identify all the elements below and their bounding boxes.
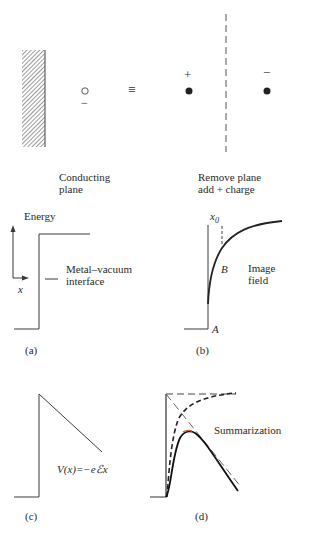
x-axis-label: x [18, 283, 23, 295]
potential-formula: V(x)=−eℰx [57, 463, 108, 475]
point-a-label: A [212, 323, 219, 335]
interface-label-2: interface [66, 275, 104, 287]
conducting-plane-icon [22, 50, 45, 147]
remove-plane-label-1: Remove plane [198, 171, 261, 183]
summarization-label: Summarization [214, 424, 281, 436]
positive-charge-sign: + [184, 68, 191, 81]
panel-d-graphic [150, 393, 241, 497]
point-b-label: B [221, 263, 228, 275]
x0-label: x0 [210, 210, 219, 227]
remove-plane-label-2: add + charge [198, 183, 255, 195]
panel-c-graphic [14, 394, 102, 497]
electron-icon [82, 88, 88, 94]
caption-c: (c) [25, 510, 37, 522]
image-field-label-2: field [248, 274, 268, 286]
conducting-plane-label-2: plane [59, 183, 83, 195]
equivalent-symbol: ≡ [128, 83, 135, 96]
negative-charge-dot [264, 88, 271, 95]
energy-axis-label: Energy [24, 210, 56, 222]
negative-charge-sign: − [263, 66, 270, 79]
electron-charge-sign: − [81, 97, 88, 109]
image-charge-diagram: − ≡ + − Conducting plane Remove plane ad… [0, 0, 319, 534]
image-field-label-1: Image [248, 262, 275, 274]
caption-b: (b) [196, 344, 209, 356]
positive-charge-dot [186, 88, 193, 95]
caption-d: (d) [195, 510, 208, 522]
interface-label-1: Metal–vacuum [66, 263, 132, 275]
caption-a: (a) [25, 344, 37, 356]
conducting-plane-label-1: Conducting [59, 171, 110, 183]
